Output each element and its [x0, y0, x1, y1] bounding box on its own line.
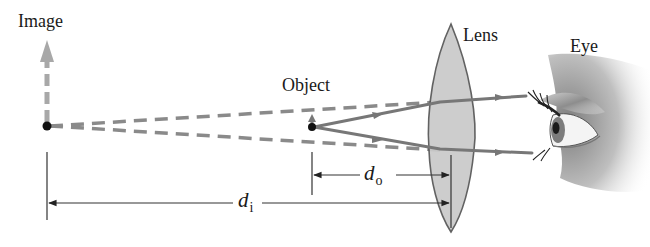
diagram-canvas — [0, 0, 650, 247]
eye-label: Eye — [570, 37, 598, 55]
d-o-subscript: o — [376, 173, 383, 188]
magnifier-diagram: Image Object Lens Eye do di — [0, 0, 650, 247]
lens — [428, 24, 475, 232]
image-point — [43, 122, 52, 131]
image-label: Image — [18, 12, 63, 30]
eye-illustration — [528, 54, 650, 192]
d-o-symbol: d — [364, 161, 375, 185]
image-arrow — [40, 40, 54, 122]
object-label: Object — [282, 76, 330, 94]
d-i-label: di — [238, 190, 253, 211]
lens-label: Lens — [463, 26, 498, 44]
d-i-subscript: i — [250, 200, 254, 215]
d-o-label: do — [364, 163, 383, 184]
virtual-rays — [50, 102, 440, 150]
object-point — [308, 123, 316, 131]
d-i-symbol: d — [238, 188, 249, 212]
